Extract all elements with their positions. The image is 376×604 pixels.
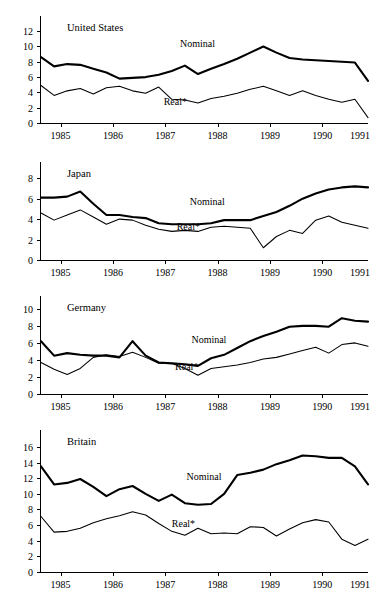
y-tick-label: 6 bbox=[28, 338, 33, 349]
chart-panel-united-states: 0246810121985198619871988198919901991Uni… bbox=[0, 8, 376, 156]
annotation-nominal: Nominal bbox=[187, 471, 222, 482]
y-tick-label: 10 bbox=[23, 489, 33, 500]
y-tick-label: 10 bbox=[23, 304, 33, 315]
y-tick-label: 16 bbox=[23, 442, 33, 453]
y-tick-label: 6 bbox=[28, 72, 33, 83]
x-tick-label: 1986 bbox=[103, 401, 123, 412]
panel-title: Britain bbox=[67, 436, 97, 447]
x-tick-label: 1987 bbox=[155, 130, 175, 141]
x-tick-label: 1991 bbox=[350, 130, 370, 141]
y-tick-label: 4 bbox=[28, 355, 33, 366]
annotation-nominal: Nominal bbox=[190, 196, 225, 207]
x-tick-label: 1989 bbox=[260, 267, 280, 278]
x-tick-label: 1988 bbox=[208, 579, 228, 590]
y-tick-label: 8 bbox=[28, 321, 33, 332]
x-tick-label: 1985 bbox=[51, 401, 71, 412]
x-tick-label: 1986 bbox=[103, 267, 123, 278]
x-tick-label: 1989 bbox=[260, 401, 280, 412]
x-tick-label: 1991 bbox=[350, 401, 370, 412]
y-tick-label: 4 bbox=[28, 87, 33, 98]
y-tick-label: 6 bbox=[28, 520, 33, 531]
series-line-real bbox=[41, 86, 368, 118]
y-tick-label: 2 bbox=[28, 103, 33, 114]
series-line-nominal bbox=[41, 46, 368, 80]
x-tick-label: 1990 bbox=[312, 579, 332, 590]
y-tick-label: 0 bbox=[28, 389, 33, 400]
x-tick-label: 1989 bbox=[260, 579, 280, 590]
y-tick-label: 12 bbox=[23, 26, 33, 37]
y-tick-label: 6 bbox=[28, 194, 33, 205]
y-tick-label: 10 bbox=[23, 41, 33, 52]
annotation-nominal: Nominal bbox=[180, 38, 215, 49]
y-tick-label: 2 bbox=[28, 372, 33, 383]
y-tick-label: 4 bbox=[28, 214, 33, 225]
x-tick-label: 1991 bbox=[350, 579, 370, 590]
x-tick-label: 1989 bbox=[260, 130, 280, 141]
y-tick-label: 4 bbox=[28, 536, 33, 547]
x-tick-label: 1985 bbox=[51, 267, 71, 278]
interest-rate-panel-figure: 0246810121985198619871988198919901991Uni… bbox=[0, 0, 376, 604]
panel-title: Japan bbox=[67, 168, 92, 179]
annotation-real: Real* bbox=[177, 221, 200, 232]
chart-panel-germany: 02468101985198619871988198919901991Germa… bbox=[0, 290, 376, 424]
panel-title: United States bbox=[67, 22, 123, 33]
x-tick-label: 1990 bbox=[312, 401, 332, 412]
series-line-real bbox=[41, 210, 368, 248]
x-tick-label: 1985 bbox=[51, 130, 71, 141]
annotation-real: Real* bbox=[164, 96, 187, 107]
y-tick-label: 2 bbox=[28, 235, 33, 246]
y-tick-label: 2 bbox=[28, 551, 33, 562]
series-line-real bbox=[41, 343, 368, 375]
x-tick-label: 1990 bbox=[312, 130, 332, 141]
y-tick-label: 0 bbox=[28, 567, 33, 578]
y-tick-label: 0 bbox=[28, 118, 33, 129]
chart-panel-japan: 024681985198619871988198919901991JapanNo… bbox=[0, 156, 376, 290]
series-line-real bbox=[41, 512, 368, 546]
x-tick-label: 1987 bbox=[155, 267, 175, 278]
y-tick-label: 8 bbox=[28, 173, 33, 184]
x-tick-label: 1988 bbox=[208, 267, 228, 278]
y-tick-label: 8 bbox=[28, 57, 33, 68]
x-tick-label: 1990 bbox=[312, 267, 332, 278]
chart-panel-britain: 0246810121416198519861987198819891990199… bbox=[0, 424, 376, 600]
panel-title: Germany bbox=[67, 302, 107, 313]
y-tick-label: 8 bbox=[28, 504, 33, 515]
y-tick-label: 0 bbox=[28, 255, 33, 266]
x-tick-label: 1986 bbox=[103, 579, 123, 590]
x-tick-label: 1987 bbox=[155, 401, 175, 412]
x-tick-label: 1986 bbox=[103, 130, 123, 141]
annotation-nominal: Nominal bbox=[191, 334, 226, 345]
x-tick-label: 1988 bbox=[208, 130, 228, 141]
x-tick-label: 1985 bbox=[51, 579, 71, 590]
annotation-real: Real* bbox=[172, 518, 195, 529]
x-tick-label: 1987 bbox=[155, 579, 175, 590]
x-tick-label: 1991 bbox=[350, 267, 370, 278]
x-tick-label: 1988 bbox=[208, 401, 228, 412]
annotation-real: Real* bbox=[175, 361, 198, 372]
y-tick-label: 12 bbox=[23, 473, 33, 484]
y-tick-label: 14 bbox=[23, 458, 33, 469]
